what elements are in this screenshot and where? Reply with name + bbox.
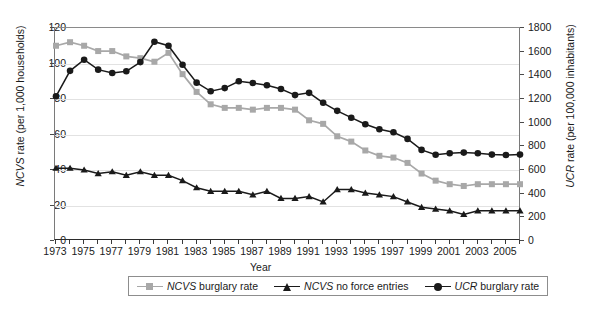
- data-point: [320, 121, 326, 127]
- data-point: [517, 181, 523, 187]
- burglary-rates-chart: NCVS rate (per 1,000 households) UCR rat…: [0, 0, 590, 310]
- data-point: [193, 79, 200, 86]
- data-point: [109, 48, 115, 54]
- data-point: [95, 48, 101, 54]
- data-point: [53, 43, 59, 49]
- data-point: [292, 92, 299, 99]
- data-point: [123, 68, 130, 75]
- data-point: [180, 71, 186, 77]
- data-point: [278, 86, 285, 93]
- data-point: [419, 171, 425, 177]
- legend-marker-square-icon: [137, 281, 163, 292]
- data-point: [390, 129, 397, 136]
- data-point: [221, 85, 228, 92]
- data-point: [137, 59, 144, 66]
- y-axis-right-tick-label: 800: [528, 140, 572, 151]
- data-point: [137, 168, 144, 174]
- data-point: [235, 78, 242, 85]
- data-point: [306, 90, 313, 97]
- legend-label-italic: NCVS: [304, 280, 333, 292]
- data-point: [208, 101, 214, 107]
- y-axis-right-tick-label: 1000: [528, 117, 572, 128]
- data-point: [489, 181, 495, 187]
- data-point: [503, 152, 510, 159]
- data-point: [151, 59, 157, 65]
- series-triangle: [52, 165, 523, 217]
- data-point: [236, 105, 242, 111]
- data-point: [334, 133, 340, 139]
- data-point: [194, 89, 200, 95]
- data-point: [53, 93, 60, 100]
- chart-legend: NCVS burglary rateNCVS no force entriesU…: [128, 276, 548, 296]
- data-point: [278, 105, 284, 111]
- data-point: [376, 126, 383, 133]
- data-point: [305, 193, 312, 199]
- y-axis-left-title-italic: NCVS: [14, 157, 26, 186]
- y-axis-right-tick-label: 1800: [528, 22, 572, 33]
- y-axis-left-title: NCVS rate (per 1,000 households): [14, 0, 26, 221]
- data-point: [222, 105, 228, 111]
- data-point: [461, 183, 467, 189]
- plot-area: [54, 27, 520, 240]
- data-point: [250, 80, 257, 87]
- x-axis-title: Year: [250, 261, 271, 273]
- data-point: [348, 139, 354, 145]
- series-layer: [55, 28, 521, 241]
- data-point: [81, 56, 88, 63]
- legend-item-triangle: NCVS no force entries: [274, 280, 408, 292]
- legend-label-rest: no force entries: [333, 280, 408, 292]
- data-point: [475, 150, 482, 157]
- data-point: [489, 151, 496, 158]
- x-axis-tick-label: 2005: [488, 246, 522, 257]
- y-axis-right-tick-label: 1600: [528, 46, 572, 57]
- y-axis-right-tick-label: 1200: [528, 93, 572, 104]
- data-point: [433, 178, 439, 184]
- data-point: [109, 70, 116, 77]
- legend-glyph: [146, 283, 153, 290]
- data-point: [320, 99, 327, 106]
- y-axis-right-tick-label: 0: [528, 235, 572, 246]
- legend-item-square: NCVS burglary rate: [137, 280, 258, 292]
- data-point: [475, 181, 481, 187]
- legend-label: UCR burglary rate: [455, 280, 540, 292]
- series-line: [56, 42, 520, 186]
- data-point: [81, 43, 87, 49]
- legend-label-italic: UCR: [455, 280, 478, 292]
- data-point: [446, 150, 453, 157]
- data-point: [517, 151, 524, 158]
- data-point: [207, 88, 214, 95]
- data-point: [179, 62, 186, 69]
- legend-label-rest: burglary rate: [196, 280, 258, 292]
- y-axis-left-title-rest: rate (per 1,000 households): [14, 25, 26, 157]
- legend-label-italic: NCVS: [167, 280, 196, 292]
- legend-marker-triangle-icon: [274, 281, 300, 292]
- data-point: [418, 147, 425, 154]
- data-point: [67, 39, 73, 45]
- data-point: [165, 42, 172, 49]
- legend-label: NCVS no force entries: [304, 280, 408, 292]
- data-point: [362, 121, 369, 128]
- data-point: [390, 155, 396, 161]
- y-axis-right-tick-label: 1400: [528, 69, 572, 80]
- series-square: [53, 39, 523, 189]
- data-point: [306, 117, 312, 123]
- data-point: [250, 107, 256, 113]
- data-point: [151, 38, 158, 45]
- y-axis-right-tick-label: 600: [528, 164, 572, 175]
- y-axis-left-tick-mark: [50, 240, 54, 241]
- data-point: [362, 147, 368, 153]
- y-axis-right-tick-label: 200: [528, 211, 572, 222]
- legend-glyph: [434, 283, 442, 291]
- data-point: [348, 114, 355, 121]
- data-point: [67, 68, 74, 75]
- data-point: [460, 149, 467, 156]
- legend-item-circle: UCR burglary rate: [425, 280, 540, 292]
- legend-glyph: [283, 283, 291, 291]
- data-point: [264, 105, 270, 111]
- data-point: [123, 53, 129, 59]
- data-point: [264, 82, 271, 89]
- legend-label-rest: burglary rate: [477, 280, 539, 292]
- data-point: [95, 66, 102, 73]
- data-point: [447, 181, 453, 187]
- data-point: [376, 153, 382, 159]
